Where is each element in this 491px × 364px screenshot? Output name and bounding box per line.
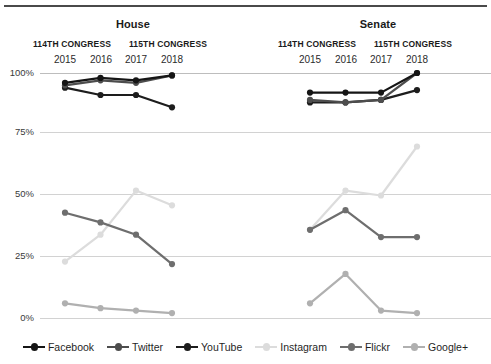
legend-label: Twitter (132, 341, 163, 353)
data-point (169, 104, 175, 110)
data-point (62, 259, 68, 265)
data-point (414, 234, 420, 240)
legend-swatch-icon (23, 343, 45, 352)
legend-label: Facebook (48, 341, 94, 353)
legend-swatch-icon (107, 343, 129, 352)
data-point (133, 308, 139, 314)
data-point (342, 271, 348, 277)
data-point (133, 188, 139, 194)
data-point (97, 92, 103, 98)
data-point (307, 97, 313, 103)
data-point (378, 234, 384, 240)
data-point (62, 300, 68, 306)
chart-legend: FacebookTwitterYouTubeInstagramFlickrGoo… (0, 336, 491, 358)
series-flickr-senate (307, 207, 420, 240)
series-line (65, 88, 172, 108)
legend-label: YouTube (201, 341, 242, 353)
series-youtube-house (62, 85, 175, 111)
data-point (342, 99, 348, 105)
data-point (169, 310, 175, 316)
series-line (65, 213, 172, 264)
data-point (133, 232, 139, 238)
legend-item-instagram[interactable]: Instagram (255, 341, 327, 353)
data-point (169, 202, 175, 208)
legend-swatch-icon (176, 343, 198, 352)
series-line (310, 73, 417, 102)
data-point (169, 261, 175, 267)
data-point (378, 90, 384, 96)
series-google-plus-house (62, 300, 175, 316)
series-line (310, 147, 417, 230)
data-point (62, 210, 68, 216)
data-point (97, 305, 103, 311)
legend-swatch-icon (340, 343, 362, 352)
series-flickr-house (62, 210, 175, 268)
data-point (378, 308, 384, 314)
legend-item-facebook[interactable]: Facebook (23, 341, 94, 353)
legend-item-flickr[interactable]: Flickr (340, 341, 390, 353)
data-point (378, 192, 384, 198)
legend-item-twitter[interactable]: Twitter (107, 341, 163, 353)
data-point (133, 77, 139, 83)
data-point (62, 80, 68, 86)
chart-root: 100% 75% 50% 25% 0% House 114TH CONGRESS… (0, 0, 491, 364)
data-point (414, 310, 420, 316)
data-point (414, 87, 420, 93)
legend-item-youtube[interactable]: YouTube (176, 341, 242, 353)
series-instagram-senate (307, 143, 420, 233)
legend-swatch-icon (255, 343, 277, 352)
series-group-senate (307, 70, 420, 316)
data-point (97, 75, 103, 81)
data-point (342, 188, 348, 194)
data-point (342, 90, 348, 96)
legend-label: Flickr (365, 341, 390, 353)
series-group-house (62, 72, 175, 316)
data-point (414, 143, 420, 149)
series-google-plus-senate (307, 271, 420, 316)
legend-swatch-icon (403, 343, 425, 352)
legend-item-google-plus[interactable]: Google+ (403, 341, 468, 353)
legend-label: Instagram (280, 341, 327, 353)
data-point (97, 232, 103, 238)
data-point (169, 72, 175, 78)
series-line (310, 210, 417, 237)
plot-area (0, 0, 491, 364)
data-point (414, 70, 420, 76)
legend-label: Google+ (428, 341, 468, 353)
data-point (97, 219, 103, 225)
data-point (342, 207, 348, 213)
series-line (310, 274, 417, 313)
data-point (307, 90, 313, 96)
data-point (378, 97, 384, 103)
series-line (310, 73, 417, 93)
data-point (307, 300, 313, 306)
data-point (307, 227, 313, 233)
data-point (133, 92, 139, 98)
series-line (65, 303, 172, 313)
series-youtube-senate (307, 87, 420, 106)
series-twitter-senate (307, 70, 420, 106)
